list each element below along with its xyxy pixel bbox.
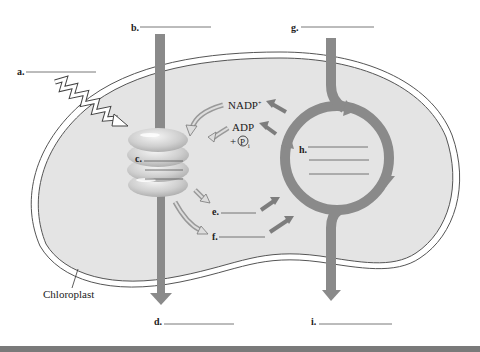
label-i: i. [311, 316, 317, 327]
label-e: e. [212, 206, 219, 217]
label-g: g. [291, 22, 299, 33]
label-d: d. [154, 316, 163, 327]
label-c: c. [135, 153, 142, 164]
chloroplast-label: Chloroplast [43, 288, 94, 300]
phosphate-symbol: P [240, 137, 245, 147]
photosynthesis-diagram: Chloroplast c. h. [0, 0, 480, 352]
bottom-bar [0, 346, 480, 352]
label-h: h. [299, 144, 308, 155]
nadp-label: NADP+ [228, 99, 262, 111]
plus-label: + [230, 135, 236, 147]
label-a: a. [17, 66, 25, 77]
adp-label: ADP [232, 121, 254, 133]
label-b: b. [131, 22, 140, 33]
label-f: f. [212, 231, 218, 242]
chloroplast-body [31, 52, 459, 287]
